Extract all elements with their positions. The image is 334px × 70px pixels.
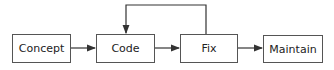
node-code-label: Code: [111, 42, 139, 55]
node-maintain: Maintain: [263, 35, 323, 63]
node-code: Code: [96, 34, 155, 63]
node-maintain-label: Maintain: [269, 43, 316, 56]
node-concept-label: Concept: [19, 42, 65, 55]
node-fix: Fix: [180, 34, 238, 63]
node-concept: Concept: [12, 34, 71, 63]
node-fix-label: Fix: [201, 42, 216, 55]
edge-fix-code-feedback: [126, 5, 206, 34]
